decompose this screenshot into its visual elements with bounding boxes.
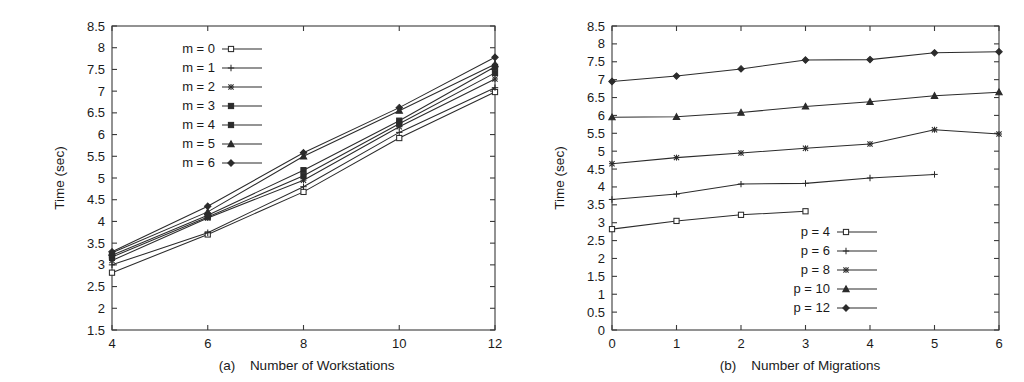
series-m=5 [109, 61, 498, 255]
caption-tag: (b) [720, 358, 737, 373]
y-tick-label: 1 [598, 287, 605, 302]
y-tick-label: 2.5 [587, 233, 605, 248]
diamond-glyph [492, 54, 498, 60]
data-point [802, 180, 808, 186]
data-point [803, 145, 809, 151]
data-point [397, 135, 402, 140]
x-tick-label: 0 [608, 336, 615, 351]
data-point [996, 49, 1002, 55]
legend-label-p=8: p = 8 [801, 262, 830, 277]
y-tick-label: 6.5 [87, 105, 105, 120]
diamond-glyph [931, 50, 937, 56]
legend: m = 0m = 1m = 2m = 3m = 4m = 5m = 6 [182, 41, 262, 170]
y-tick-label: 7 [98, 84, 105, 99]
data-point [931, 50, 937, 56]
legend: p = 4p = 6p = 8p = 10p = 12 [793, 224, 877, 315]
y-tick-label: 4 [598, 179, 605, 194]
data-point [609, 196, 615, 202]
y-tick-label: 6.5 [587, 90, 605, 105]
y-tick-label: 7 [598, 72, 605, 87]
legend-marker [228, 84, 234, 90]
data-point [492, 76, 498, 82]
legend-marker [843, 248, 849, 254]
data-point [931, 171, 937, 177]
data-point [867, 56, 873, 62]
legend-label-m=0: m = 0 [182, 41, 215, 56]
data-point [738, 181, 744, 187]
y-tick-label: 5.5 [87, 149, 105, 164]
data-point [205, 203, 211, 209]
chart-b-canvas: 00.511.522.533.544.555.566.577.588.50123… [512, 0, 1024, 382]
series-p=12 [609, 49, 1002, 85]
figure-container: 1.522.533.544.555.566.577.588.54681012Ti… [0, 0, 1024, 382]
y-tick-label: 3.5 [87, 236, 105, 251]
data-point [397, 118, 402, 123]
y-tick-label: 3.5 [587, 197, 605, 212]
y-tick-label: 4.5 [587, 162, 605, 177]
y-tick-label: 8.5 [87, 19, 105, 34]
caption-text: Number of Workstations [250, 358, 395, 373]
data-point [301, 189, 306, 194]
diamond-glyph [843, 305, 849, 311]
legend-marker [843, 229, 848, 234]
open-square-glyph [738, 212, 743, 217]
legend-label-m=4: m = 4 [182, 117, 215, 132]
diamond-glyph [228, 160, 234, 166]
legend-label-p=10: p = 10 [793, 281, 830, 296]
series-line [612, 211, 806, 229]
y-axis-title: Time (sec) [552, 146, 567, 209]
series-line [612, 174, 935, 199]
y-tick-label: 7.5 [587, 54, 605, 69]
x-tick-label: 6 [204, 336, 211, 351]
legend-marker [843, 267, 849, 273]
x-tick-label: 10 [392, 336, 406, 351]
diamond-glyph [738, 66, 744, 72]
data-point [738, 66, 744, 72]
filled-square-glyph [397, 118, 402, 123]
data-point [492, 54, 498, 60]
data-point [396, 129, 402, 135]
diamond-glyph [867, 56, 873, 62]
open-square-glyph [109, 270, 114, 275]
data-point [674, 218, 679, 223]
y-axis-title: Time (sec) [52, 146, 67, 209]
data-point [674, 155, 680, 161]
series-p=8 [609, 127, 1002, 167]
series-line [112, 67, 495, 255]
legend-label-m=2: m = 2 [182, 79, 215, 94]
y-tick-label: 6 [598, 108, 605, 123]
diamond-glyph [996, 49, 1002, 55]
filled-square-glyph [228, 103, 233, 108]
data-point [803, 209, 808, 214]
open-square-glyph [674, 218, 679, 223]
series-p=10 [609, 89, 1002, 120]
legend-marker [843, 305, 849, 311]
filled-square-glyph [492, 70, 497, 75]
y-tick-label: 1.5 [87, 323, 105, 338]
y-tick-label: 6 [98, 127, 105, 142]
legend-marker [228, 65, 234, 71]
chart-panel-a: 1.522.533.544.555.566.577.588.54681012Ti… [0, 0, 512, 382]
y-tick-label: 3 [598, 215, 605, 230]
series-p=4 [609, 209, 808, 232]
series-p=6 [609, 171, 938, 202]
data-point [738, 150, 744, 156]
x-tick-label: 3 [802, 336, 809, 351]
y-tick-label: 4 [98, 214, 105, 229]
y-tick-label: 8 [98, 40, 105, 55]
data-point [673, 191, 679, 197]
caption-tag: (a) [219, 358, 236, 373]
series-line [112, 73, 495, 257]
legend-label-p=6: p = 6 [801, 243, 830, 258]
series-m=6 [109, 54, 498, 255]
y-tick-label: 5 [98, 171, 105, 186]
y-tick-label: 0 [598, 323, 605, 338]
legend-label-m=5: m = 5 [182, 136, 215, 151]
legend-label-p=4: p = 4 [801, 224, 830, 239]
y-tick-label: 4.5 [87, 192, 105, 207]
y-tick-label: 5 [598, 144, 605, 159]
chart-panel-b: 00.511.522.533.544.555.566.577.588.50123… [512, 0, 1024, 382]
data-point [802, 57, 808, 63]
y-tick-label: 1.5 [587, 269, 605, 284]
x-tick-label: 6 [995, 336, 1002, 351]
